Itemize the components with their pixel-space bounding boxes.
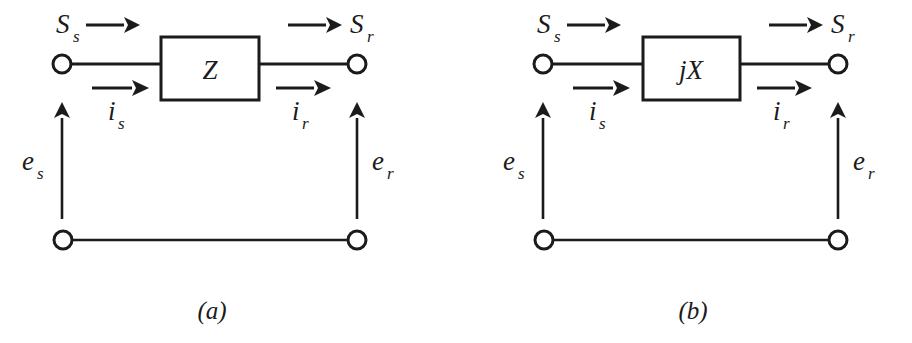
arrow-sending-current-b (573, 80, 630, 96)
label-sending-voltage-a: e (22, 146, 34, 176)
label-receiving-current-sub-a: r (302, 114, 309, 133)
label-receiving-current-a: i (292, 96, 300, 126)
node-sending-top-a (53, 55, 71, 73)
caption-b: (b) (678, 297, 707, 325)
node-receiving-bottom-b (829, 231, 847, 249)
label-sending-voltage-sub-a: s (37, 164, 44, 183)
node-receiving-top-a (348, 55, 366, 73)
label-sending-power-sub-a: s (73, 27, 80, 46)
arrow-receiving-power-b (769, 17, 823, 33)
node-receiving-top-b (829, 55, 847, 73)
label-sending-voltage-sub-b: s (518, 164, 525, 183)
arrow-receiving-power-a (288, 17, 342, 33)
node-sending-bottom-b (535, 231, 553, 249)
label-sending-current-sub-a: s (118, 114, 125, 133)
node-receiving-bottom-a (348, 231, 366, 249)
diagram-canvas: Z S s S r (0, 0, 912, 343)
label-receiving-voltage-sub-a: r (387, 164, 394, 183)
arrow-sending-power-b (567, 17, 621, 33)
arrow-receiving-voltage-a (349, 102, 365, 219)
label-sending-power-a: S (56, 9, 70, 39)
label-receiving-power-sub-a: r (367, 27, 374, 46)
node-sending-bottom-a (54, 231, 72, 249)
label-sending-voltage-b: e (503, 146, 515, 176)
label-sending-current-b: i (589, 96, 597, 126)
arrow-sending-voltage-b (535, 102, 551, 219)
component-box-label-a: Z (202, 55, 218, 85)
panel-a: Z S s S r (22, 9, 394, 325)
label-receiving-current-b: i (773, 96, 781, 126)
label-sending-power-b: S (537, 9, 551, 39)
label-receiving-current-sub-b: r (783, 114, 790, 133)
arrow-sending-current-a (92, 80, 149, 96)
label-receiving-power-b: S (831, 9, 845, 39)
label-receiving-voltage-b: e (853, 146, 865, 176)
label-sending-power-sub-b: s (554, 27, 561, 46)
arrow-receiving-current-a (276, 80, 331, 96)
arrow-receiving-voltage-b (830, 102, 846, 219)
label-receiving-power-a: S (350, 9, 364, 39)
panel-b: jX S s S r (503, 9, 875, 325)
arrow-sending-voltage-a (54, 102, 70, 219)
label-receiving-voltage-sub-b: r (868, 164, 875, 183)
caption-a: (a) (197, 297, 226, 325)
node-sending-top-b (534, 55, 552, 73)
circuit-figure: Z S s S r (0, 0, 912, 343)
label-sending-current-sub-b: s (599, 114, 606, 133)
arrow-sending-power-a (86, 17, 140, 33)
label-sending-current-a: i (108, 96, 116, 126)
arrow-receiving-current-b (757, 80, 812, 96)
component-box-label-b: jX (676, 55, 705, 85)
label-receiving-power-sub-b: r (848, 27, 855, 46)
label-receiving-voltage-a: e (372, 146, 384, 176)
